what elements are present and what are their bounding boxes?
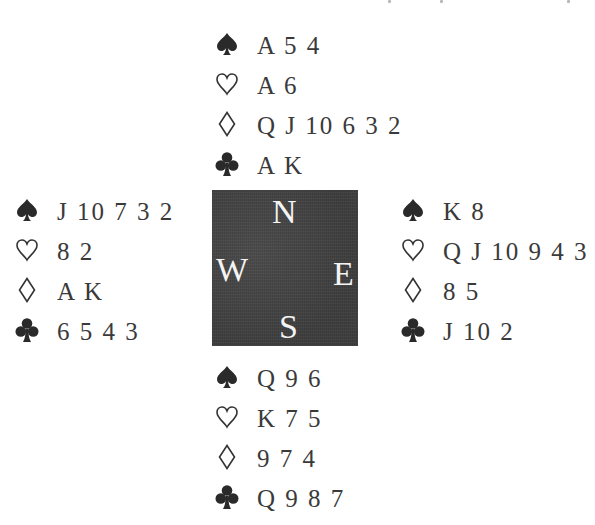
heart-icon [214, 70, 240, 98]
west-hearts-cards: 8 2 [57, 239, 94, 264]
hand-west: J 10 7 3 2 8 2 A K 6 5 4 3 [14, 190, 174, 350]
diamond-icon [214, 110, 240, 138]
west-diamonds-cards: A K [57, 279, 104, 304]
north-spades-row: A 5 4 [214, 24, 403, 64]
heart-icon [400, 236, 426, 264]
west-hearts-row: 8 2 [14, 230, 174, 270]
hand-east: K 8 Q J 10 9 4 3 8 5 J 10 2 [400, 190, 589, 350]
compass-west-label: W [216, 253, 248, 287]
west-diamonds-row: A K [14, 270, 174, 310]
spade-icon [14, 196, 40, 224]
east-clubs-cards: J 10 2 [443, 319, 515, 344]
club-icon [400, 316, 426, 344]
north-clubs-cards: A K [257, 153, 304, 178]
east-hearts-cards: Q J 10 9 4 3 [443, 239, 589, 264]
east-diamonds-cards: 8 5 [443, 279, 480, 304]
south-hearts-row: K 7 5 [214, 397, 345, 437]
north-clubs-row: A K [214, 144, 403, 184]
south-hearts-cards: K 7 5 [257, 406, 323, 431]
south-clubs-cards: Q 9 8 7 [257, 486, 345, 511]
west-clubs-row: 6 5 4 3 [14, 310, 174, 350]
south-diamonds-cards: 9 7 4 [257, 446, 317, 471]
diamond-icon [214, 443, 240, 471]
heart-icon [14, 236, 40, 264]
compass-south-label: S [279, 310, 298, 344]
east-hearts-row: Q J 10 9 4 3 [400, 230, 589, 270]
east-spades-row: K 8 [400, 190, 589, 230]
east-diamonds-row: 8 5 [400, 270, 589, 310]
north-hearts-row: A 6 [214, 64, 403, 104]
compass-north-label: N [272, 195, 297, 229]
south-diamonds-row: 9 7 4 [214, 437, 345, 477]
club-icon [14, 316, 40, 344]
diamond-icon [400, 276, 426, 304]
club-icon [214, 483, 240, 511]
hand-south: Q 9 6 K 7 5 9 7 4 Q 9 8 7 [214, 357, 345, 517]
club-icon [214, 150, 240, 178]
spade-icon [400, 196, 426, 224]
spade-icon [214, 363, 240, 391]
heart-icon [214, 403, 240, 431]
south-spades-cards: Q 9 6 [257, 366, 323, 391]
top-edge-cropped-text [0, 0, 595, 4]
south-clubs-row: Q 9 8 7 [214, 477, 345, 517]
spade-icon [214, 30, 240, 58]
west-spades-cards: J 10 7 3 2 [57, 199, 174, 224]
east-spades-cards: K 8 [443, 199, 486, 224]
north-hearts-cards: A 6 [257, 73, 298, 98]
north-diamonds-row: Q J 10 6 3 2 [214, 104, 403, 144]
west-clubs-cards: 6 5 4 3 [57, 319, 140, 344]
compass-box: N W E S [212, 190, 358, 346]
compass-east-label: E [333, 257, 354, 291]
hand-north: A 5 4 A 6 Q J 10 6 3 2 A K [214, 24, 403, 184]
west-spades-row: J 10 7 3 2 [14, 190, 174, 230]
north-spades-cards: A 5 4 [257, 33, 321, 58]
north-diamonds-cards: Q J 10 6 3 2 [257, 113, 403, 138]
south-spades-row: Q 9 6 [214, 357, 345, 397]
diamond-icon [14, 276, 40, 304]
east-clubs-row: J 10 2 [400, 310, 589, 350]
